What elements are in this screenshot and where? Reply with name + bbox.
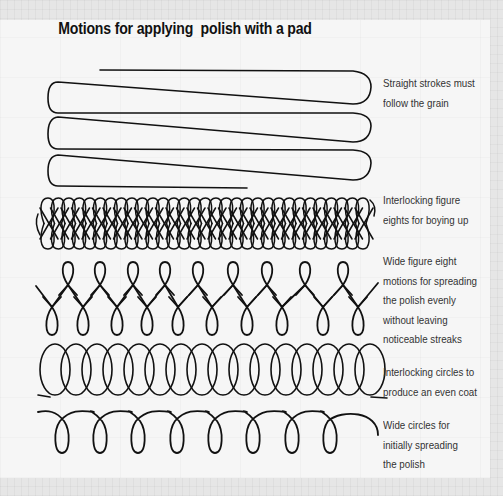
caption-line: follow the grain xyxy=(383,94,481,114)
caption-line: without leaving xyxy=(383,311,481,331)
caption-straight-strokes: Straight strokes must follow the grain xyxy=(383,74,481,113)
caption-interlocking-figure-eights: Interlocking figure eights for boying up xyxy=(383,191,481,230)
caption-line: Wide figure eight xyxy=(383,252,481,272)
caption-interlocking-circles: Interlocking circles to produce an even … xyxy=(383,363,481,402)
caption-line: the polish evenly xyxy=(383,291,481,311)
caption-line: produce an even coat xyxy=(383,383,481,403)
caption-line: Interlocking circles to xyxy=(383,363,481,383)
wide-figure-eight-drawing xyxy=(36,262,378,335)
wide-circles-drawing xyxy=(38,411,378,453)
caption-line: eights for boying up xyxy=(383,211,481,231)
caption-line: motions for spreading xyxy=(383,272,481,292)
caption-wide-figure-eight: Wide figure eight motions for spreading … xyxy=(383,252,481,350)
caption-line: Interlocking figure xyxy=(383,191,481,211)
caption-line: Straight strokes must xyxy=(383,74,481,94)
straight-strokes-drawing xyxy=(48,70,371,188)
interlocking-figure-eights-drawing xyxy=(36,198,375,249)
caption-wide-circles: Wide circles for initially spreading the… xyxy=(383,416,481,475)
caption-line: noticeable streaks xyxy=(383,330,481,350)
interlocking-circles-drawing xyxy=(38,344,387,398)
caption-line: initially spreading xyxy=(383,436,481,456)
caption-line: Wide circles for xyxy=(383,416,481,436)
caption-line: the polish xyxy=(383,455,481,475)
